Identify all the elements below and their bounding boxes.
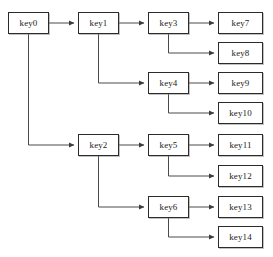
node-key6[interactable]: key6 — [148, 196, 189, 218]
node-label: key5 — [160, 141, 178, 150]
node-key4[interactable]: key4 — [148, 72, 189, 94]
node-key3[interactable]: key3 — [148, 12, 189, 34]
node-label: key13 — [229, 203, 252, 212]
tree-diagram: key0 key1 key2 key3 key4 key5 key6 key7 … — [0, 0, 273, 257]
node-key7[interactable]: key7 — [218, 12, 263, 34]
node-label: key3 — [160, 19, 178, 28]
edge-layer — [0, 0, 273, 257]
node-key5[interactable]: key5 — [148, 134, 189, 156]
edge-key6-to-key14 — [169, 218, 215, 237]
edge-key0-to-key2 — [29, 34, 75, 145]
node-key9[interactable]: key9 — [218, 72, 263, 94]
node-label: key12 — [229, 172, 252, 181]
edge-key5-to-key12 — [169, 156, 215, 176]
node-label: key4 — [160, 79, 178, 88]
edge-key1-to-key4 — [99, 34, 145, 83]
node-label: key1 — [90, 19, 108, 28]
edge-key3-to-key8 — [169, 34, 215, 53]
node-label: key6 — [160, 203, 178, 212]
node-label: key8 — [232, 49, 250, 58]
node-label: key9 — [232, 79, 250, 88]
edge-key2-to-key6 — [99, 156, 145, 207]
node-label: key0 — [20, 19, 38, 28]
node-label: key7 — [232, 19, 250, 28]
node-key13[interactable]: key13 — [218, 196, 263, 218]
node-label: key10 — [229, 109, 252, 118]
node-label: key2 — [90, 141, 108, 150]
node-key11[interactable]: key11 — [218, 134, 263, 156]
node-key1[interactable]: key1 — [78, 12, 119, 34]
node-key0[interactable]: key0 — [8, 12, 49, 34]
edge-key4-to-key10 — [169, 94, 215, 113]
node-key12[interactable]: key12 — [218, 165, 263, 187]
node-label: key11 — [229, 141, 251, 150]
node-label: key14 — [229, 233, 252, 242]
node-key8[interactable]: key8 — [218, 42, 263, 64]
node-key10[interactable]: key10 — [218, 102, 263, 124]
node-key14[interactable]: key14 — [218, 226, 263, 248]
node-key2[interactable]: key2 — [78, 134, 119, 156]
